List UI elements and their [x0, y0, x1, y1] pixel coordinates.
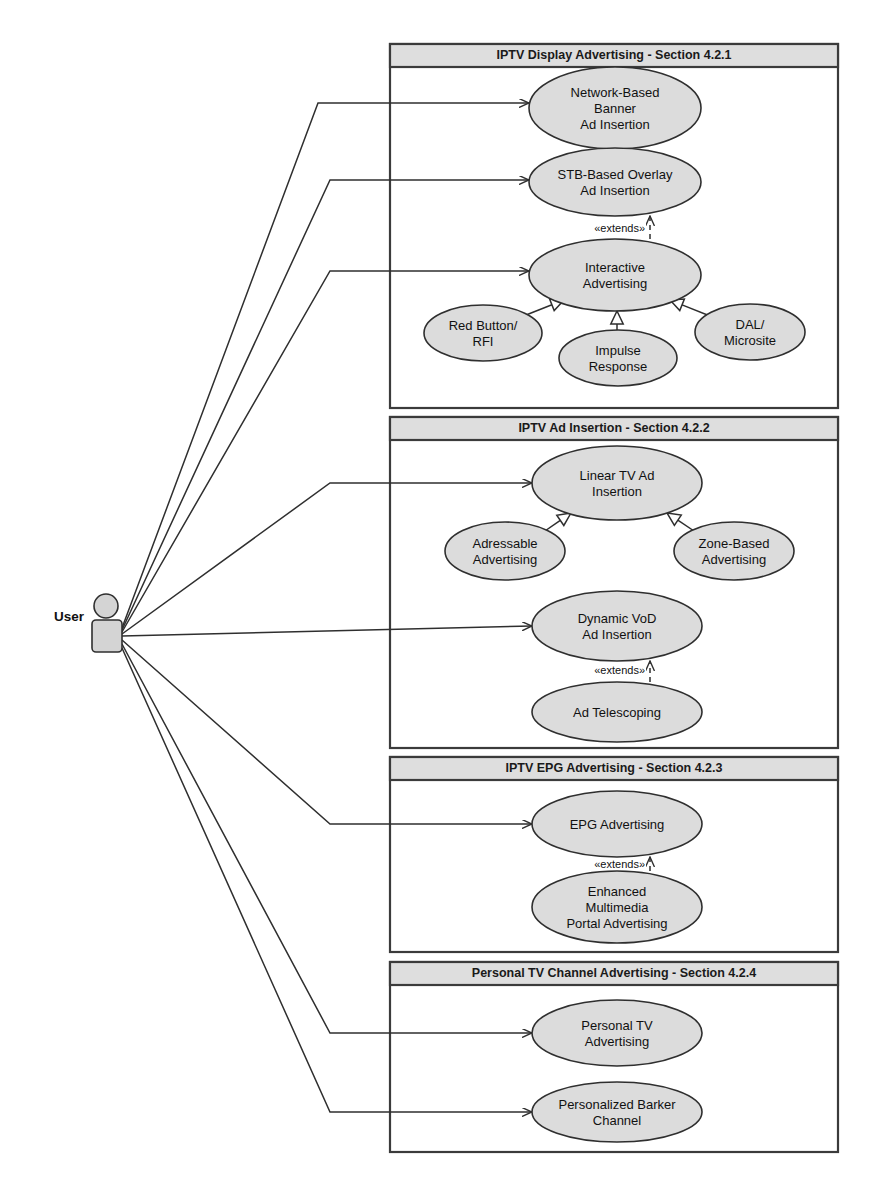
actor-head-icon — [94, 594, 118, 618]
use-case-network-based-banner-ad-insertion[interactable]: Network-BasedBannerAd Insertion — [529, 67, 701, 149]
use-case-ad-telescoping[interactable]: Ad Telescoping — [532, 682, 702, 742]
use-case-label: Zone-BasedAdvertising — [699, 536, 770, 567]
extends-enhanced-portal-extends-epg-advertising: «extends» — [594, 857, 650, 871]
use-case-zone-based-advertising[interactable]: Zone-BasedAdvertising — [674, 522, 794, 580]
use-case-interactive-advertising[interactable]: InteractiveAdvertising — [529, 239, 701, 311]
use-case-label: AdressableAdvertising — [472, 536, 537, 567]
use-case-label: Ad Telescoping — [573, 705, 661, 720]
extends-stereotype-label: «extends» — [594, 222, 645, 234]
use-case-diagram-root: IPTV Display Advertising - Section 4.2.1… — [0, 0, 884, 1201]
use-case-label: InteractiveAdvertising — [583, 260, 647, 291]
frame-title: IPTV Display Advertising - Section 4.2.1 — [496, 48, 731, 62]
use-case-stb-based-overlay-ad-insertion[interactable]: STB-Based OverlayAd Insertion — [529, 148, 701, 216]
use-case-personalized-barker-channel[interactable]: Personalized BarkerChannel — [532, 1082, 702, 1142]
frame-title: IPTV EPG Advertising - Section 4.2.3 — [506, 761, 723, 775]
actor-user[interactable]: User — [54, 594, 122, 652]
frame-title: Personal TV Channel Advertising - Sectio… — [472, 966, 756, 980]
use-case-linear-tv-ad-insertion[interactable]: Linear TV AdInsertion — [532, 446, 702, 520]
actor-label: User — [54, 609, 85, 624]
uml-use-case-diagram: IPTV Display Advertising - Section 4.2.1… — [0, 0, 884, 1201]
frame-title: IPTV Ad Insertion - Section 4.2.2 — [518, 421, 709, 435]
use-case-label: EPG Advertising — [570, 817, 665, 832]
extends-stereotype-label: «extends» — [594, 858, 645, 870]
actor-layer: User — [54, 594, 122, 652]
use-case-epg-advertising[interactable]: EPG Advertising — [532, 791, 702, 857]
extends-stereotype-label: «extends» — [594, 664, 645, 676]
use-case-dal-microsite[interactable]: DAL/Microsite — [695, 304, 805, 360]
actor-body-icon — [92, 620, 122, 652]
use-case-red-button-rfi[interactable]: Red Button/RFI — [424, 305, 542, 361]
use-case-label: ImpulseResponse — [589, 343, 648, 374]
use-case-enhanced-multimedia-portal-advertising[interactable]: EnhancedMultimediaPortal Advertising — [532, 871, 702, 943]
use-case-label: Personal TVAdvertising — [581, 1018, 653, 1049]
use-case-personal-tv-advertising[interactable]: Personal TVAdvertising — [532, 1000, 702, 1066]
use-case-impulse-response[interactable]: ImpulseResponse — [559, 330, 677, 386]
use-case-label: Dynamic VoDAd Insertion — [578, 611, 657, 642]
use-case-dynamic-vod-ad-insertion[interactable]: Dynamic VoDAd Insertion — [532, 591, 702, 661]
use-case-adressable-advertising[interactable]: AdressableAdvertising — [445, 522, 565, 580]
